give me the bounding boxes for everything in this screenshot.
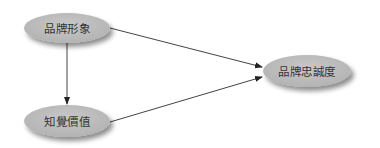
node-perceived-value: 知覺價值	[24, 105, 110, 137]
node-label: 品牌形象	[44, 20, 90, 36]
node-brand-loyalty: 品牌忠誠度	[263, 55, 351, 87]
node-label: 知覺價值	[44, 113, 90, 129]
edge-brand-image-to-brand-loyalty	[110, 28, 262, 67]
node-label: 品牌忠誠度	[278, 63, 336, 79]
edge-perceived-value-to-brand-loyalty	[110, 77, 262, 122]
node-brand-image: 品牌形象	[24, 13, 110, 43]
